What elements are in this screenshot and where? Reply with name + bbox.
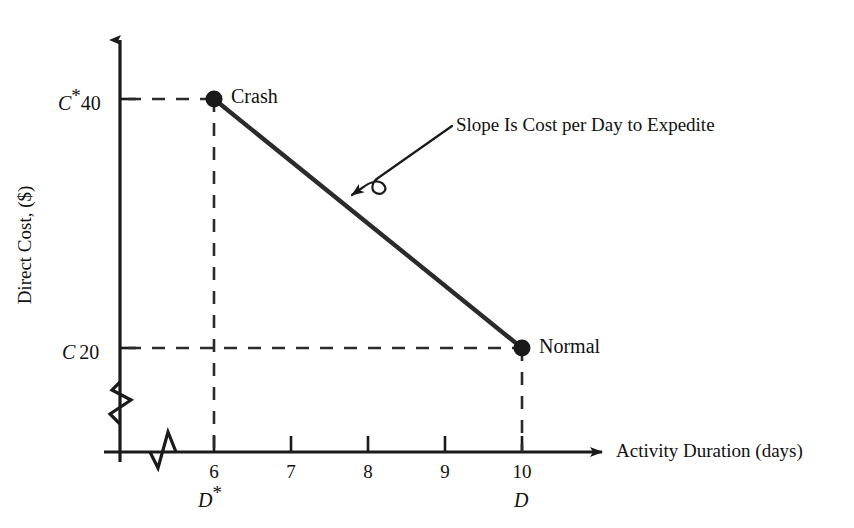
y-axis-title-text: Direct Cost, ($) xyxy=(15,186,34,305)
y-label-crash-cost: C*40 xyxy=(58,86,101,113)
slope-annotation-text: Slope Is Cost per Day to Expedite xyxy=(456,115,715,134)
point-label-crash: Crash xyxy=(231,86,278,106)
chart-figure: Direct Cost, ($) C*40 C20 Crash Normal S… xyxy=(0,0,854,528)
y-label-crash-star: * xyxy=(71,85,81,106)
y-label-normal-value: 20 xyxy=(79,341,99,363)
x-tick-label-9: 9 xyxy=(430,462,460,481)
x-symbol-d-star-star: * xyxy=(212,482,222,503)
cost-duration-line xyxy=(214,99,522,348)
y-label-crash-symbol: C xyxy=(58,92,71,114)
x-symbol-label-d-star: D* xyxy=(198,483,222,510)
x-tick-label-6: 6 xyxy=(199,462,229,481)
point-label-normal: Normal xyxy=(539,336,600,356)
y-label-normal-symbol: C xyxy=(62,341,75,363)
annotation-leader-squiggle xyxy=(352,126,452,195)
y-axis-title: Direct Cost, ($) xyxy=(4,140,44,350)
x-axis-ticks xyxy=(214,436,522,452)
data-point-crash xyxy=(206,91,223,108)
data-point-normal xyxy=(514,340,531,357)
x-symbol-label-d: D xyxy=(514,483,528,510)
x-tick-label-8: 8 xyxy=(353,462,383,481)
x-symbol-d-star-symbol: D xyxy=(198,489,212,511)
x-axis-title: Activity Duration (days) xyxy=(616,441,803,460)
y-label-normal-cost: C20 xyxy=(62,335,99,362)
y-label-crash-value: 40 xyxy=(81,92,101,114)
x-tick-label-7: 7 xyxy=(276,462,306,481)
x-axis-break-icon xyxy=(150,432,176,468)
y-axis-ticks xyxy=(120,99,136,348)
x-tick-label-10: 10 xyxy=(504,462,540,481)
x-symbol-d-symbol: D xyxy=(514,489,528,511)
